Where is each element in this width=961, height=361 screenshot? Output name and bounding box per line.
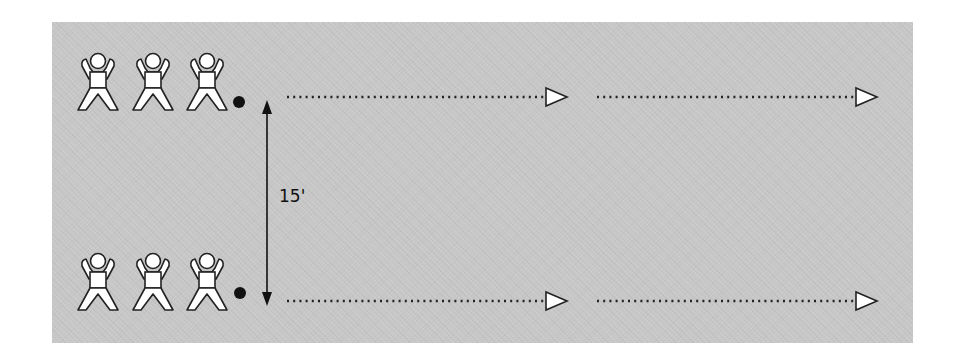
drill-diagram [0,0,961,361]
run-path-arrow-icon [287,292,567,310]
player-icon [133,54,173,111]
distance-label: 15' [279,186,305,206]
player-icon [78,54,118,111]
run-path-arrow-icon [597,88,877,106]
ball-icon [233,96,245,108]
distance-arrow-icon [262,100,272,306]
run-path-arrow-icon [287,88,567,106]
run-path-arrow-icon [597,292,877,310]
ball-icon [234,287,246,299]
player-icon [78,254,118,311]
player-icon [187,254,227,311]
player-icon [133,254,173,311]
player-icon [187,54,227,111]
